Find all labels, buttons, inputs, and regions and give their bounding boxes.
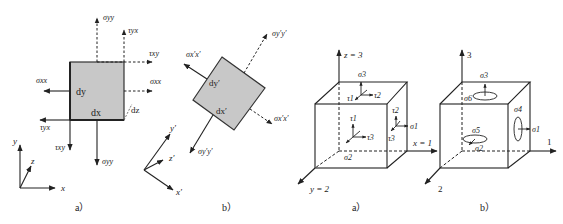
axis-z-label: z = 3 xyxy=(343,50,363,60)
sigma-xx-prime-right-arrow xyxy=(250,109,272,124)
panel-a-stress-element: dy dx dz σyy τyx τxy σxx σxx τyx τxy σyy… xyxy=(12,13,161,213)
dy-prime-label: dy′ xyxy=(209,78,220,88)
axis-2-label: 2 xyxy=(438,184,443,194)
sigma-xx-left-label: σxx xyxy=(36,76,47,85)
rotated-element-square xyxy=(193,57,265,130)
cube-a: z = 3 x = 1 y = 2 σ3 τ1 τ2 τ1 τ3 σ2 τ2 σ… xyxy=(298,50,437,213)
axis-y-label: y = 2 xyxy=(309,184,330,194)
sigma-xx-prime-left-label: σx′x′ xyxy=(186,50,201,59)
axis-x-label: x = 1 xyxy=(412,138,432,148)
dy-label: dy xyxy=(76,86,86,97)
caption-right-b: b） xyxy=(480,202,495,213)
sigma1-label: σ1 xyxy=(410,122,418,131)
sigma5-label: σ5 xyxy=(472,126,480,135)
sigma2-label: σ2 xyxy=(344,153,352,162)
front-tau3-label: τ3 xyxy=(367,133,374,142)
panel-b-rotated-element: dy′ dx′ σy′y′ σx′x′ σx′x′ σy′y′ y′ z′ x′… xyxy=(144,29,289,213)
sigma6-label: σ6 xyxy=(464,94,472,103)
tau-yx-top-label: τyx xyxy=(128,26,138,35)
axis-x-label: x xyxy=(60,183,65,193)
sigma-yy-top-label: σyy xyxy=(103,13,114,22)
axis-y-arrow xyxy=(298,168,315,184)
sigma4-label: σ4 xyxy=(514,105,522,114)
stress-diagrams: dy dx dz σyy τyx τxy σxx σxx τyx τxy σyy… xyxy=(0,0,563,224)
axis-x-prime-label: x′ xyxy=(175,187,183,197)
sigma3-label: σ3 xyxy=(358,70,366,79)
sigma1-label: σ1 xyxy=(532,125,540,134)
tau-yx-bottom-label: τyx xyxy=(40,123,50,132)
sigma-xx-right-label: σxx xyxy=(150,77,161,86)
axes-prime: y′ z′ x′ xyxy=(144,123,183,197)
axis-y-prime-label: y′ xyxy=(169,123,177,133)
tau-xy-right-label: τxy xyxy=(149,49,159,58)
side-tau2-label: τ2 xyxy=(392,106,399,115)
top-tau1-label: τ1 xyxy=(347,94,354,103)
caption-right-a: a） xyxy=(352,202,366,213)
dx-prime-label: dx′ xyxy=(216,106,227,116)
axis-y-label: y xyxy=(12,136,17,146)
front-tau1-label: τ1 xyxy=(350,114,357,123)
sigma-yy-prime-bottom-label: σy′y′ xyxy=(198,147,213,156)
axis-3-label: 3 xyxy=(467,50,472,60)
dz-label: dz xyxy=(131,105,140,115)
sigma3-label: σ3 xyxy=(480,71,488,80)
dx-label: dx xyxy=(91,107,101,118)
sigma2-label: σ2 xyxy=(475,144,483,153)
axis-1-label: 1 xyxy=(547,137,552,147)
axis-2-arrow xyxy=(425,168,440,184)
sigma-xx-prime-right-label: σx′x′ xyxy=(274,114,289,123)
axis-z-label: z xyxy=(30,156,35,166)
sigma-yy-prime-top-arrow xyxy=(244,34,267,73)
cube-b: 3 1 2 σ3 σ6 σ4 σ1 σ5 σ2 b） xyxy=(425,50,556,213)
tau-xy-bottom-label: τxy xyxy=(55,143,65,152)
side-tau3-label: τ3 xyxy=(388,134,395,143)
sigma-yy-prime-top-label: σy′y′ xyxy=(272,29,287,38)
sigma-yy-bottom-label: σyy xyxy=(102,157,113,166)
axis-z-prime-label: z′ xyxy=(168,153,176,163)
caption-left-a: a） xyxy=(75,202,89,213)
sigma-xx-prime-left-arrow xyxy=(184,64,207,79)
top-tau2-label: τ2 xyxy=(374,91,381,100)
caption-left-b: b） xyxy=(222,202,237,213)
